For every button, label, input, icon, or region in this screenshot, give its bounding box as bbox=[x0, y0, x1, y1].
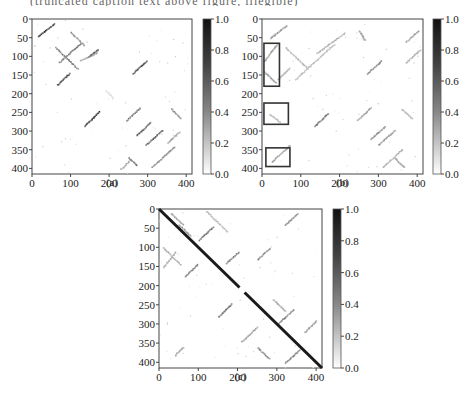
colorbar-tick-label: 0.8 bbox=[445, 44, 459, 56]
y-tick-label: 0 bbox=[23, 13, 29, 25]
y-tick-label: 150 bbox=[139, 260, 156, 272]
colorbar-tick-label: 0.2 bbox=[445, 137, 459, 149]
colorbar-tick-label: 0.6 bbox=[215, 75, 229, 87]
y-tick-label: 100 bbox=[139, 241, 156, 253]
figure: 0501001502002503003504000100200300400(a)… bbox=[0, 0, 466, 402]
y-tick-label: 50 bbox=[144, 222, 156, 234]
colorbar-tick-label: 1.0 bbox=[345, 203, 359, 215]
y-tick-label: 350 bbox=[12, 144, 29, 156]
y-tick-label: 300 bbox=[242, 125, 259, 137]
heatmap-panel-b: 0501001502002503003504000100200300400(b)… bbox=[242, 13, 460, 189]
x-tick-label: 100 bbox=[293, 177, 310, 189]
colorbar-tick-label: 0.0 bbox=[215, 168, 229, 180]
panel-caption: (c) bbox=[234, 370, 247, 383]
colorbar-tick-label: 0.0 bbox=[445, 168, 459, 180]
x-tick-label: 300 bbox=[139, 177, 156, 189]
x-tick-label: 0 bbox=[259, 177, 265, 189]
y-tick-label: 300 bbox=[139, 318, 156, 330]
y-tick-label: 0 bbox=[253, 13, 259, 25]
y-tick-label: 250 bbox=[12, 106, 29, 118]
colorbar-tick-label: 0.4 bbox=[215, 106, 229, 118]
colorbar-tick-label: 0.4 bbox=[345, 298, 359, 310]
y-tick-label: 350 bbox=[139, 337, 156, 349]
y-tick-label: 400 bbox=[242, 162, 259, 174]
x-tick-label: 400 bbox=[308, 371, 325, 383]
colorbar-tick-label: 1.0 bbox=[445, 13, 459, 25]
x-tick-label: 400 bbox=[178, 177, 195, 189]
x-tick-label: 300 bbox=[269, 371, 286, 383]
heatmap-panel-a: 0501001502002503003504000100200300400(a)… bbox=[12, 13, 230, 189]
colorbar-tick-label: 0.8 bbox=[345, 235, 359, 247]
colorbar: 1.00.80.60.40.20.0 bbox=[203, 13, 229, 180]
panel-caption: (a) bbox=[106, 176, 119, 189]
colorbar-tick-label: 0.6 bbox=[345, 267, 359, 279]
panel-caption: (b) bbox=[336, 176, 349, 189]
colorbar-tick-label: 0.8 bbox=[215, 44, 229, 56]
y-tick-label: 150 bbox=[242, 69, 259, 81]
colorbar-tick-label: 0.2 bbox=[345, 330, 359, 342]
y-tick-label: 250 bbox=[139, 299, 156, 311]
y-tick-label: 400 bbox=[139, 356, 156, 368]
x-tick-label: 100 bbox=[190, 371, 207, 383]
y-tick-label: 0 bbox=[150, 203, 156, 215]
x-tick-label: 0 bbox=[156, 371, 162, 383]
heatmap-panel-c: 0501001502002503003504000100200300400(c)… bbox=[139, 203, 360, 383]
colorbar-tick-label: 0.4 bbox=[445, 106, 459, 118]
y-tick-label: 200 bbox=[139, 280, 156, 292]
y-tick-label: 100 bbox=[242, 50, 259, 62]
colorbar-tick-label: 0.0 bbox=[345, 362, 359, 374]
y-tick-label: 250 bbox=[242, 106, 259, 118]
x-tick-label: 400 bbox=[409, 177, 426, 189]
y-tick-label: 100 bbox=[12, 50, 29, 62]
x-tick-label: 300 bbox=[370, 177, 387, 189]
x-tick-label: 0 bbox=[29, 177, 35, 189]
x-tick-label: 100 bbox=[62, 177, 79, 189]
y-tick-label: 200 bbox=[12, 88, 29, 100]
y-tick-label: 50 bbox=[17, 32, 29, 44]
y-tick-label: 350 bbox=[242, 144, 259, 156]
colorbar: 1.00.80.60.40.20.0 bbox=[433, 13, 459, 180]
y-tick-label: 400 bbox=[12, 162, 29, 174]
colorbar-tick-label: 0.2 bbox=[215, 137, 229, 149]
y-tick-label: 300 bbox=[12, 125, 29, 137]
y-tick-label: 50 bbox=[247, 32, 259, 44]
y-tick-label: 200 bbox=[242, 88, 259, 100]
colorbar: 1.00.80.60.40.20.0 bbox=[333, 203, 359, 374]
colorbar-tick-label: 0.6 bbox=[445, 75, 459, 87]
y-tick-label: 150 bbox=[12, 69, 29, 81]
colorbar-tick-label: 1.0 bbox=[215, 13, 229, 25]
